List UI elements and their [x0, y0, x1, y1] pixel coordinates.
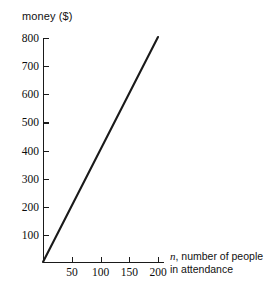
x-axis-tick-label: 200: [143, 266, 173, 278]
y-axis-tick: [44, 94, 49, 95]
y-axis-tick: [44, 38, 49, 39]
y-axis-title: money ($): [22, 10, 72, 22]
x-axis-title-line1: , number of people: [176, 250, 264, 262]
x-axis-tick: [158, 257, 159, 262]
y-axis-tick-label: 400: [11, 145, 39, 157]
y-axis-tick: [44, 122, 49, 123]
y-axis-tick: [44, 179, 49, 180]
y-axis-tick-label: 300: [11, 173, 39, 185]
x-axis-tick-label: 150: [114, 266, 144, 278]
x-axis-tick: [72, 257, 73, 262]
x-axis-line: [43, 262, 164, 263]
x-axis-tick-label: 100: [86, 266, 116, 278]
chart-container: money ($) 800 700 600 500 400 300 200 10…: [0, 0, 276, 293]
y-axis-tick: [44, 66, 49, 67]
x-axis-tick: [129, 257, 130, 262]
y-axis-tick-label: 700: [11, 60, 39, 72]
y-axis-tick: [44, 207, 49, 208]
y-axis-tick: [44, 151, 49, 152]
y-axis-tick-label: 100: [11, 229, 39, 241]
x-axis-title: n, number of people in attendance: [170, 250, 263, 276]
y-axis-tick: [44, 235, 49, 236]
y-axis-tick-label: 800: [11, 32, 39, 44]
y-axis-tick-label: 200: [11, 201, 39, 213]
y-axis-tick-label: 500: [11, 116, 39, 128]
x-axis-tick: [101, 257, 102, 262]
y-axis-tick-label: 600: [11, 88, 39, 100]
data-line-series-money: [43, 37, 158, 262]
x-axis-title-line2: in attendance: [170, 263, 233, 275]
x-axis-tick-label: 50: [57, 266, 87, 278]
